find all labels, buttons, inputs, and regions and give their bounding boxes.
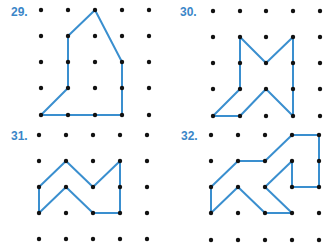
grid-dot — [66, 113, 70, 117]
grid-dot — [66, 8, 70, 12]
grid-dot — [93, 8, 97, 12]
grid-dot — [147, 113, 151, 117]
grid-dot — [263, 159, 267, 163]
grid-dot — [317, 185, 321, 189]
grid-dot — [318, 35, 322, 39]
grid-dot — [290, 133, 294, 137]
grid-dot — [37, 237, 41, 241]
grid-dot — [209, 133, 213, 137]
dot-grid-figures — [0, 0, 331, 250]
grid-dot — [211, 9, 215, 13]
grid-dot — [39, 86, 43, 90]
grid-dot — [39, 34, 43, 38]
grid-dot — [290, 159, 294, 163]
grid-dot — [120, 8, 124, 12]
grid-dot — [66, 34, 70, 38]
grid-dot — [147, 60, 151, 64]
grid-dot — [209, 185, 213, 189]
grid-dot — [118, 159, 122, 163]
grid-dot — [291, 114, 295, 118]
grid-dot — [147, 34, 151, 38]
grid-dot — [263, 185, 267, 189]
grid-dot — [118, 237, 122, 241]
grid-dot — [290, 211, 294, 215]
grid-dot — [37, 185, 41, 189]
grid-dot — [120, 60, 124, 64]
grid-dot — [317, 159, 321, 163]
grid-dot — [145, 211, 149, 215]
grid-dot — [236, 238, 240, 242]
grid-dot — [120, 86, 124, 90]
grid-dot — [64, 159, 68, 163]
grid-dot — [37, 159, 41, 163]
grid-dot — [211, 35, 215, 39]
grid-dot — [145, 185, 149, 189]
grid-dot — [291, 87, 295, 91]
grid-dot — [64, 237, 68, 241]
grid-dot — [64, 211, 68, 215]
grid-dot — [91, 185, 95, 189]
grid-dot — [238, 87, 242, 91]
grid-dot — [264, 87, 268, 91]
grid-dot — [263, 133, 267, 137]
grid-dot — [118, 211, 122, 215]
grid-dot — [145, 237, 149, 241]
grid-dot — [238, 61, 242, 65]
grid-dot — [263, 238, 267, 242]
polygon-shape — [41, 10, 122, 115]
grid-dot — [318, 61, 322, 65]
grid-dot — [317, 211, 321, 215]
polygon-shape — [213, 37, 293, 116]
grid-dot — [318, 87, 322, 91]
polygon-shape — [39, 161, 120, 213]
grid-dot — [290, 185, 294, 189]
grid-dot — [39, 60, 43, 64]
grid-dot — [66, 60, 70, 64]
grid-dot — [211, 61, 215, 65]
grid-dot — [209, 211, 213, 215]
figure-32 — [209, 133, 321, 242]
grid-dot — [145, 159, 149, 163]
grid-dot — [91, 237, 95, 241]
grid-dot — [318, 9, 322, 13]
figure-31 — [37, 133, 149, 241]
figure-30 — [211, 9, 322, 118]
grid-dot — [238, 114, 242, 118]
grid-dot — [147, 86, 151, 90]
grid-dot — [236, 133, 240, 137]
grid-dot — [91, 133, 95, 137]
grid-dot — [93, 60, 97, 64]
grid-dot — [236, 211, 240, 215]
grid-dot — [93, 113, 97, 117]
grid-dot — [120, 34, 124, 38]
grid-dot — [318, 114, 322, 118]
grid-dot — [211, 87, 215, 91]
grid-dot — [37, 133, 41, 137]
grid-dot — [236, 159, 240, 163]
grid-dot — [291, 61, 295, 65]
grid-dot — [290, 238, 294, 242]
grid-dot — [39, 113, 43, 117]
grid-dot — [317, 238, 321, 242]
grid-dot — [120, 113, 124, 117]
grid-dot — [39, 8, 43, 12]
grid-dot — [118, 133, 122, 137]
grid-dot — [37, 211, 41, 215]
grid-dot — [64, 133, 68, 137]
grid-dot — [93, 34, 97, 38]
grid-dot — [263, 211, 267, 215]
grid-dot — [236, 185, 240, 189]
grid-dot — [209, 159, 213, 163]
grid-dot — [64, 185, 68, 189]
grid-dot — [264, 61, 268, 65]
grid-dot — [264, 114, 268, 118]
grid-dot — [238, 35, 242, 39]
grid-dot — [211, 114, 215, 118]
grid-dot — [238, 9, 242, 13]
grid-dot — [291, 35, 295, 39]
grid-dot — [209, 238, 213, 242]
grid-dot — [93, 86, 97, 90]
grid-dot — [91, 159, 95, 163]
grid-dot — [264, 35, 268, 39]
grid-dot — [145, 133, 149, 137]
